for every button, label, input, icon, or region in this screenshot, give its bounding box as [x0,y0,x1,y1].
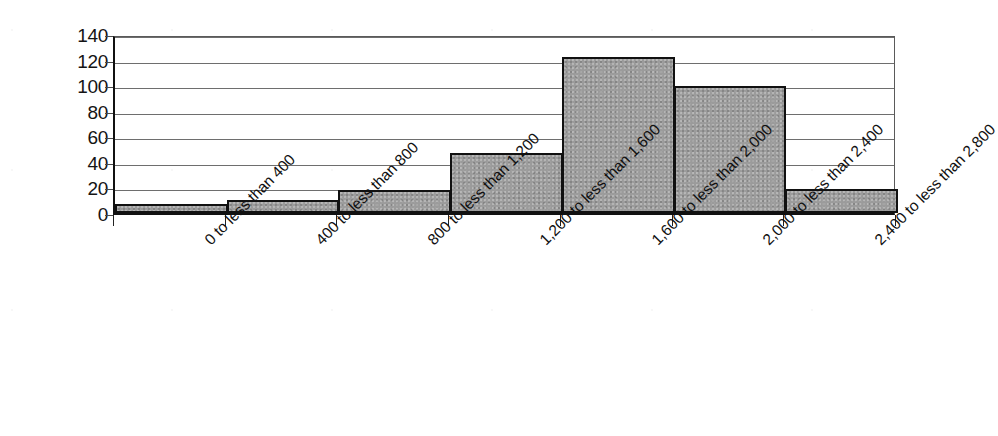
x-axis-label-1: 400 to less than 800 [312,139,421,248]
x-axis-label-6: 2,400 to less than 2,800 [871,121,998,248]
x-tick-mark-0 [113,215,114,226]
x-axis-label-0: 0 to less than 400 [201,151,298,248]
x-axis-label-2: 800 to less than 1,200 [424,130,542,248]
x-axis-label-3: 1,200 to less than 1,600 [536,121,663,248]
x-axis-label-5: 2,000 to less than 2,400 [759,121,886,248]
x-axis-label-4: 1,600 to less than 2,000 [648,121,775,248]
